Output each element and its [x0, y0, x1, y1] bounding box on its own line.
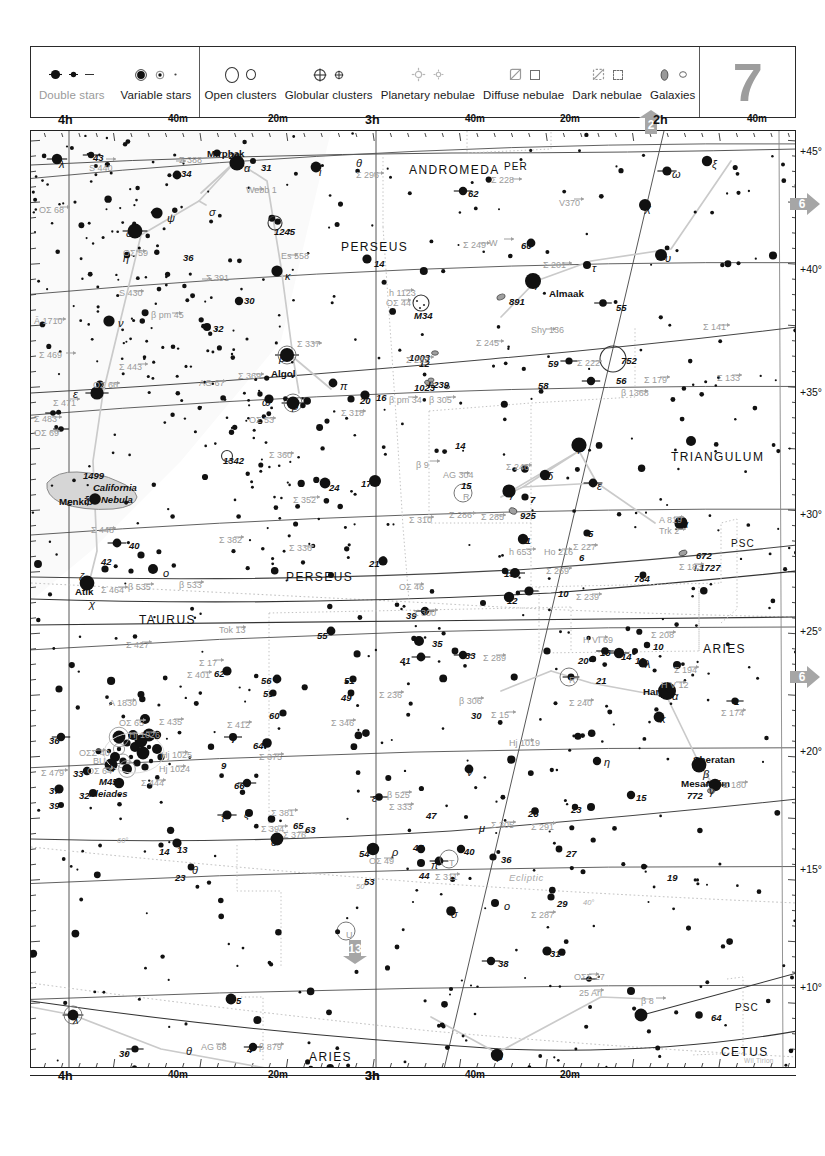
dso-label-1: M45	[99, 777, 117, 787]
greek-star-label-4: σ	[209, 207, 216, 218]
constellation-label-triangulum-4: TRIANGULUM	[671, 451, 764, 463]
variable-star-medium-icon	[155, 70, 165, 80]
legend-pane-page-number: 7	[700, 47, 795, 117]
double-star-designation-31: OΣ 53	[249, 416, 274, 425]
double-star-designation-108: R	[569, 676, 576, 685]
dso-label-4: California	[93, 483, 137, 493]
flamsteed-label-60: 39	[49, 801, 60, 811]
flamsteed-label-64: 26	[528, 809, 539, 819]
greek-star-label-3: ψ	[167, 213, 175, 224]
adjacent-chart-arrow-6[interactable]: 6	[790, 665, 820, 689]
legend-label-globular-clusters: Globular clusters	[285, 89, 373, 101]
star-name-sheratan: Sheratan	[693, 755, 735, 765]
flamsteed-label-54: 7	[231, 735, 236, 745]
flamsteed-label-50: 60	[269, 711, 280, 721]
flamsteed-label-46: 59	[263, 689, 274, 699]
adjacent-chart-arrow-13[interactable]: 13	[340, 940, 370, 964]
galaxy-small-icon	[678, 70, 688, 79]
double-star-designation-63: Σ 401	[187, 671, 210, 680]
double-star-designation-85: Σ 287	[531, 911, 554, 920]
greek-star-label-17: χ	[89, 599, 95, 610]
double-star-designation-92: H VI 69	[583, 636, 613, 645]
flamsteed-label-35: 20	[578, 656, 589, 666]
flamsteed-label-27: 10	[558, 589, 569, 599]
double-star-designation-99: 25 Ari	[579, 989, 602, 998]
legend-item-dark-nebulae: Dark nebulae	[568, 64, 646, 101]
flamsteed-label-44: 55	[317, 631, 328, 641]
ra-tick-top-0: 4h	[58, 114, 73, 127]
double-star-designation-69: Hj 1024	[159, 765, 190, 774]
double-star-designation-36: Σ 352	[293, 496, 316, 505]
greek-star-label-23: υ	[665, 253, 671, 264]
double-star-designation-104: OΣ 44	[386, 299, 411, 308]
double-star-designation-80: β 525	[387, 791, 410, 800]
double-star-designation-105: V370	[559, 199, 580, 208]
double-star-designation-28: Σ 292	[406, 356, 429, 365]
flamsteed-label-16: 16	[376, 393, 387, 403]
double-star-designation-84: Σ 311	[435, 873, 457, 882]
greek-star-label-27: γ	[509, 489, 515, 500]
ra-tick-top-4: 40m	[465, 114, 485, 124]
flamsteed-label-20: 24	[329, 483, 340, 493]
ra-tick-top-7: 40m	[747, 114, 767, 124]
greek-star-label-43: π	[431, 860, 438, 871]
globular-cluster-symbols	[313, 64, 344, 86]
double-star-designation-25: Σ 179	[644, 376, 667, 385]
double-star-designation-74: Σ 412	[227, 721, 250, 730]
legend-item-double-stars: Double stars	[35, 64, 109, 101]
dark-nebula-large-icon	[591, 67, 606, 82]
double-star-designation-3: OΣ 68	[39, 206, 64, 215]
page-number: 7	[733, 55, 763, 109]
flamsteed-label-67: 54	[359, 849, 370, 859]
double-star-designation-101: AG 68	[201, 1043, 227, 1052]
flamsteed-label-83: 64	[711, 1013, 722, 1023]
ra-tick-top-2: 20m	[268, 114, 288, 124]
double-star-designation-17: Σ 296	[356, 171, 379, 180]
double-star-designation-86: β 306	[459, 697, 482, 706]
adjacent-chart-number: 13	[340, 937, 370, 961]
ra-tick-top-3: 3h	[365, 114, 380, 127]
double-star-designation-39: Σ 285	[481, 513, 504, 522]
flamsteed-label-73: 27	[566, 849, 577, 859]
adjacent-chart-arrow-6[interactable]: 6	[790, 192, 820, 216]
variable-star-symbols	[134, 64, 179, 86]
adjacent-chart-number: 6	[787, 665, 817, 689]
greek-star-label-8: ν	[118, 318, 124, 329]
legend-item-globular-clusters: Globular clusters	[281, 64, 377, 101]
double-star-designation-76: Σ 381	[271, 809, 294, 818]
flamsteed-label-32: 35	[432, 639, 443, 649]
double-star-designation-13: Σ 483	[34, 415, 57, 424]
double-star-designation-107: R	[463, 493, 470, 502]
dec-tick-0: +45°	[800, 146, 822, 157]
greek-star-label-19: γ	[534, 279, 540, 290]
greek-star-label-12: β	[279, 353, 285, 364]
dec-tick-5: +20°	[800, 746, 822, 757]
legend-label-variable-stars: Variable stars	[121, 89, 192, 101]
star-chart-page: Double stars Variable stars	[0, 0, 825, 1156]
double-star-designation-66: Σ 435	[159, 718, 182, 727]
double-star-designation-35: Σ 360	[269, 451, 292, 460]
flamsteed-label-8: 62	[468, 189, 479, 199]
double-star-designation-2: Webb 1	[246, 186, 277, 195]
dso-label-10: 752	[621, 356, 637, 366]
double-star-designation-60: Tok 13	[219, 626, 246, 635]
flamsteed-label-53: 9	[221, 761, 226, 771]
greek-star-label-16: ζ	[79, 572, 84, 583]
star-name-algol: Algol	[271, 369, 296, 379]
ra-tick-top-6: 2h	[653, 114, 668, 127]
double-star-designation-32: Σ 318	[341, 409, 364, 418]
double-star-designation-34: β 305	[429, 396, 452, 405]
greek-star-label-35: η	[604, 757, 610, 768]
constellation-label-aries-7: ARIES	[309, 1051, 352, 1063]
double-star-designation-77: Σ 394	[261, 825, 284, 834]
double-star-designation-57: OΣ 46	[399, 583, 424, 592]
greek-star-label-24: τ	[592, 263, 596, 274]
flamsteed-label-62: 63	[305, 825, 316, 835]
greek-star-label-14: ω	[262, 397, 271, 408]
double-star-designation-15: β pm 45	[151, 311, 184, 320]
flamsteed-label-75: 31	[550, 949, 561, 959]
flamsteed-label-15: 20	[360, 396, 371, 406]
open-cluster-large-icon	[225, 67, 239, 83]
double-star-designation-18: Σ 228	[491, 176, 514, 185]
ra-tick-bottom-2: 20m	[268, 1070, 288, 1080]
